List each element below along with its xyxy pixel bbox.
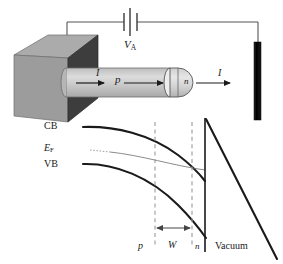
conduction-band-label: CB [44, 121, 57, 131]
conduction-band-curve [83, 127, 205, 181]
tip-p-region-label: p [115, 74, 121, 85]
current-label-left: I [96, 68, 99, 78]
battery-symbol [124, 8, 137, 36]
vacuum-level-line [206, 119, 277, 259]
fermi-level-line [110, 152, 205, 170]
figure-graphics [0, 0, 283, 264]
applied-voltage-subscript: A [131, 43, 136, 52]
current-label-right: I [218, 68, 221, 78]
depletion-width-label: W [168, 240, 176, 250]
tip-n-region-label: n [184, 77, 189, 86]
region-n-label: n [195, 242, 200, 251]
depletion-boundary-guides [155, 122, 192, 245]
anode-rod [254, 42, 261, 120]
applied-voltage-label: VA [124, 39, 136, 51]
vacuum-region-label: Vacuum [215, 241, 248, 251]
valence-band-curve [83, 164, 206, 238]
fermi-level-label: EF [44, 143, 54, 154]
region-p-label: p [138, 241, 143, 251]
fermi-label-leader [90, 150, 110, 152]
valence-band-label: VB [44, 159, 58, 169]
fermi-level-subscript: F [50, 146, 54, 153]
figure-canvas: VA I I p n CB EF VB p W n Vacuum [0, 0, 283, 264]
